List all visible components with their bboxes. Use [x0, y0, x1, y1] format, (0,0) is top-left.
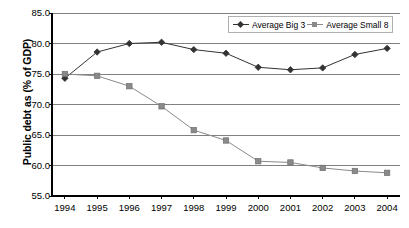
x-tick-label: 2004 [367, 202, 407, 213]
legend-label-big3: Average Big 3 [252, 20, 305, 30]
chart-legend: Average Big 3 Average Small 8 [228, 16, 393, 33]
square-marker-icon [307, 20, 323, 29]
diamond-marker-icon [233, 20, 249, 29]
chart-container: Public debt as (% of GDP) 85.080.075.070… [0, 0, 409, 228]
legend-entry-big3: Average Big 3 [233, 20, 305, 30]
legend-entry-small8: Average Small 8 [307, 20, 388, 30]
x-axis-tick-labels: 1994199519961997199819992000200120022003… [0, 0, 409, 228]
legend-label-small8: Average Small 8 [326, 20, 388, 30]
